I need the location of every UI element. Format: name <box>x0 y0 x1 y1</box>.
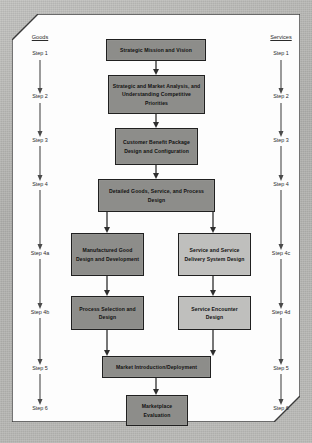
right-step-4d: Step 4d <box>254 309 308 315</box>
right-step-3: Step 3 <box>254 137 308 143</box>
right-step-5: Step 5 <box>254 365 308 371</box>
right-rail-heading: Services <box>254 34 308 40</box>
figure-page: Goods Step 1 Step 2 Step 3 Step 4 Step 4… <box>0 0 312 443</box>
left-step-2: Step 2 <box>13 93 67 99</box>
right-step-1: Step 1 <box>254 50 308 56</box>
node-marketplace-evaluation[interactable]: Marketplace Evaluation <box>126 395 188 426</box>
node-service-delivery[interactable]: Service and Service Delivery System Desi… <box>178 233 251 276</box>
node-detailed-design[interactable]: Detailed Goods, Service, and Process Des… <box>98 179 215 212</box>
node-strategic-analysis[interactable]: Strategic and Market Analysis, and Under… <box>108 75 205 114</box>
left-step-5: Step 5 <box>13 365 67 371</box>
left-step-6: Step 6 <box>13 405 67 411</box>
left-step-4: Step 4 <box>13 181 67 187</box>
left-step-1: Step 1 <box>13 50 67 56</box>
node-manufactured-good[interactable]: Manufactured Good Design and Development <box>71 233 144 276</box>
left-step-4b: Step 4b <box>13 309 67 315</box>
right-step-4c: Step 4c <box>254 250 308 256</box>
node-strategic-mission[interactable]: Strategic Mission and Vision <box>106 39 206 61</box>
node-process-selection[interactable]: Process Selection and Design <box>71 296 144 330</box>
node-service-encounter[interactable]: Service Encounter Design <box>178 296 251 330</box>
left-step-4a: Step 4a <box>13 250 67 256</box>
node-customer-benefit[interactable]: Customer Benefit Package Design and Conf… <box>115 128 198 165</box>
node-market-introduction[interactable]: Market Introduction/Deployment <box>102 356 211 378</box>
right-step-6: Step 6 <box>254 405 308 411</box>
left-step-3: Step 3 <box>13 137 67 143</box>
left-rail-heading: Goods <box>13 34 67 40</box>
right-step-2: Step 2 <box>254 93 308 99</box>
right-step-4: Step 4 <box>254 181 308 187</box>
